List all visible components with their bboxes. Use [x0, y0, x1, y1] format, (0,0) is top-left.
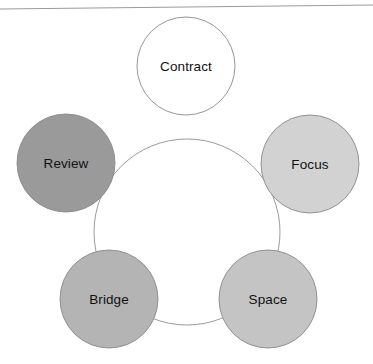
diagram-canvas: Contract Focus Space Bridge Review	[0, 0, 373, 364]
node-contract-label: Contract	[160, 59, 212, 74]
node-bridge-label: Bridge	[89, 292, 129, 307]
node-space-label: Space	[249, 292, 288, 307]
cycle-diagram: Contract Focus Space Bridge Review	[0, 0, 373, 364]
node-review[interactable]: Review	[17, 114, 115, 212]
node-contract[interactable]: Contract	[137, 17, 235, 115]
node-space[interactable]: Space	[219, 250, 317, 348]
node-bridge[interactable]: Bridge	[60, 250, 158, 348]
scan-edge-line	[0, 5, 373, 9]
node-review-label: Review	[44, 156, 89, 171]
node-focus[interactable]: Focus	[261, 115, 359, 213]
node-focus-label: Focus	[291, 157, 328, 172]
